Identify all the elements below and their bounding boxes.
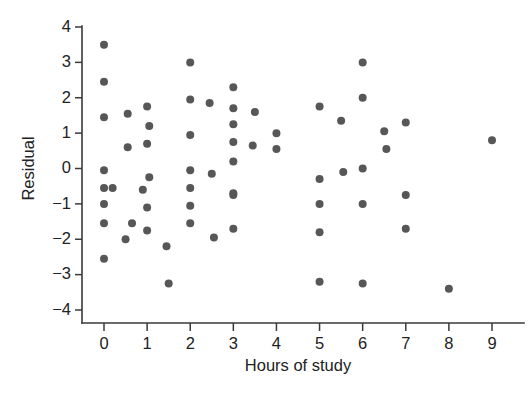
data-point [359,200,367,208]
data-point [249,142,257,150]
data-point [229,83,237,91]
x-axis-tick-label: 7 [401,334,410,352]
x-axis-tick-label: 6 [358,334,367,352]
data-point [143,140,151,148]
data-point [229,120,237,128]
data-point [229,138,237,146]
data-point [316,278,324,286]
data-point [100,41,108,49]
ticks-group: −4−3−2−1012340123456789 [52,17,496,352]
x-axis-tick-label: 0 [99,334,108,352]
data-point [229,157,237,165]
data-point [122,235,130,243]
data-point [186,58,194,66]
data-point [128,219,136,227]
data-point [145,122,153,130]
data-point [445,285,453,293]
data-point [145,173,153,181]
data-point [124,143,132,151]
data-point [100,184,108,192]
y-axis-tick-label: −3 [52,264,71,282]
data-point [100,200,108,208]
x-axis-tick-label: 4 [272,334,281,352]
data-point [186,96,194,104]
x-axis-title: Hours of study [245,356,352,374]
data-point [359,58,367,66]
data-point [186,131,194,139]
y-axis-tick-label: −1 [52,194,71,212]
data-point [165,279,173,287]
y-axis-tick-label: 1 [62,123,71,141]
data-point [380,127,388,135]
y-axis-tick-label: 0 [62,158,71,176]
data-point [382,145,390,153]
data-point [124,110,132,118]
plot-canvas: −4−3−2−1012340123456789 Hours of studyRe… [0,0,530,399]
y-axis-tick-label: 3 [62,52,71,70]
data-point [316,228,324,236]
data-point [359,94,367,102]
data-point [402,191,410,199]
scatter-plot-figure: −4−3−2−1012340123456789 Hours of studyRe… [0,0,530,399]
data-point [208,170,216,178]
data-point [359,279,367,287]
data-point [109,184,117,192]
data-point [339,168,347,176]
data-point [229,191,237,199]
data-point [251,108,259,116]
data-point [316,200,324,208]
data-points-group [100,41,496,293]
data-point [163,242,171,250]
y-axis-tick-label: −4 [52,300,71,318]
data-point [186,219,194,227]
data-point [316,103,324,111]
data-point [143,226,151,234]
data-point [139,186,147,194]
x-axis-tick-label: 5 [315,334,324,352]
data-point [143,103,151,111]
data-point [206,99,214,107]
data-point [186,184,194,192]
x-axis-tick-label: 2 [186,334,195,352]
data-point [100,78,108,86]
data-point [100,255,108,263]
data-point [488,136,496,144]
data-point [143,203,151,211]
data-point [359,165,367,173]
data-point [210,233,218,241]
data-point [186,202,194,210]
x-axis-tick-label: 3 [229,334,238,352]
data-point [229,104,237,112]
y-axis-title: Residual [19,136,37,200]
y-axis-tick-label: −2 [52,229,71,247]
data-point [402,119,410,127]
data-point [100,113,108,121]
data-point [272,129,280,137]
x-axis-tick-label: 8 [444,334,453,352]
data-point [337,117,345,125]
data-point [402,225,410,233]
data-point [272,145,280,153]
x-axis-tick-label: 1 [143,334,152,352]
y-axis-tick-label: 4 [62,17,71,35]
data-point [100,166,108,174]
data-point [229,225,237,233]
data-point [100,219,108,227]
y-axis-tick-label: 2 [62,88,71,106]
data-point [316,175,324,183]
x-axis-tick-label: 9 [487,334,496,352]
data-point [186,166,194,174]
